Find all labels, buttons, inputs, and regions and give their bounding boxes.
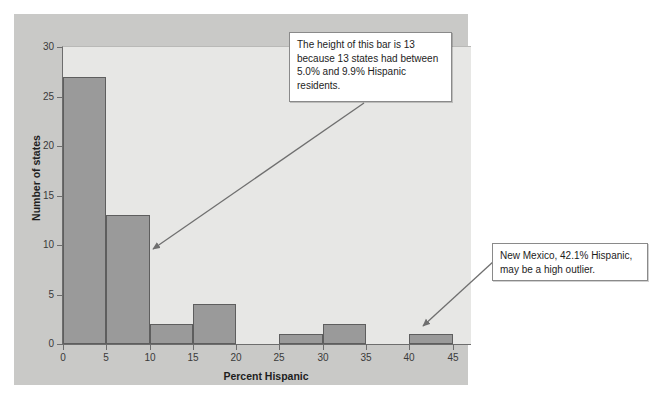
y-axis-tick-label: 5 xyxy=(28,289,54,300)
x-axis-tick-label: 0 xyxy=(51,352,75,363)
histogram-bar xyxy=(193,304,236,344)
histogram-bar xyxy=(409,334,452,344)
histogram-bar xyxy=(150,324,193,344)
x-axis-tick xyxy=(409,345,410,350)
annotation-outlier: New Mexico, 42.1% Hispanic, may be a hig… xyxy=(492,243,648,281)
x-axis-tick xyxy=(453,345,454,350)
histogram-bar xyxy=(106,215,149,344)
chart-page: 051015202530 051015202530354045 Percent … xyxy=(0,0,668,403)
x-axis-tick xyxy=(279,345,280,350)
y-axis-tick-label: 0 xyxy=(28,338,54,349)
y-axis-tick-label: 30 xyxy=(28,41,54,52)
x-axis-tick xyxy=(63,345,64,350)
y-axis-tick xyxy=(57,47,62,48)
x-axis-tick-label: 10 xyxy=(138,352,162,363)
x-axis-tick xyxy=(106,345,107,350)
y-axis-tick xyxy=(57,146,62,147)
histogram-bar xyxy=(323,324,366,344)
x-axis-tick xyxy=(323,345,324,350)
annotation-bar-height: The height of this bar is 13 because 13 … xyxy=(289,32,452,102)
x-axis-title: Percent Hispanic xyxy=(62,370,470,382)
x-axis-tick-label: 20 xyxy=(224,352,248,363)
x-axis-tick xyxy=(150,345,151,350)
y-axis-tick xyxy=(57,245,62,246)
y-axis-tick xyxy=(57,97,62,98)
y-axis-tick xyxy=(57,295,62,296)
y-axis-title: Number of states xyxy=(30,118,42,238)
x-axis-tick-label: 15 xyxy=(181,352,205,363)
histogram-bar xyxy=(279,334,322,344)
x-axis-tick xyxy=(236,345,237,350)
histogram-bar xyxy=(63,77,106,344)
x-axis-tick xyxy=(366,345,367,350)
y-axis-tick-label: 25 xyxy=(28,91,54,102)
x-axis-tick xyxy=(193,345,194,350)
y-axis-tick xyxy=(57,196,62,197)
x-axis-tick-label: 25 xyxy=(267,352,291,363)
x-axis-tick-label: 40 xyxy=(397,352,421,363)
x-axis-tick-label: 5 xyxy=(94,352,118,363)
y-axis-tick xyxy=(57,344,62,345)
x-axis-tick-label: 35 xyxy=(354,352,378,363)
y-axis-tick-label: 10 xyxy=(28,239,54,250)
x-axis-tick-label: 30 xyxy=(311,352,335,363)
x-axis-tick-label: 45 xyxy=(441,352,465,363)
